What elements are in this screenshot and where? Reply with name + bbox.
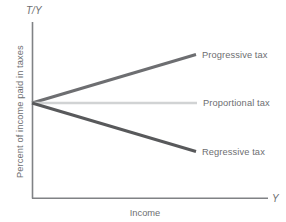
series-line-progressive xyxy=(32,55,196,104)
y-axis-variable-label: T/Y xyxy=(26,5,43,16)
annotation-progressive-tax: Progressive tax xyxy=(202,50,268,60)
x-axis-variable-label: Y xyxy=(272,193,280,204)
annotation-proportional-tax: Proportional tax xyxy=(203,98,270,108)
series-line-regressive xyxy=(32,103,196,152)
y-axis-caption: Percent of income paid in taxes xyxy=(15,45,25,178)
chart-canvas: T/Y Y Income Percent of income paid in t… xyxy=(0,0,286,222)
tax-structure-chart: T/Y Y Income Percent of income paid in t… xyxy=(0,0,286,222)
annotation-regressive-tax: Regressive tax xyxy=(202,147,265,157)
x-axis-caption: Income xyxy=(130,208,161,218)
